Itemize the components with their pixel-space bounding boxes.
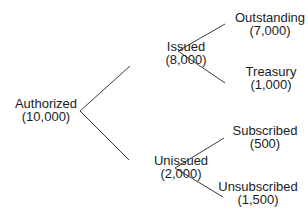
node-value: (500) [232, 137, 297, 150]
node-value: (1,500) [218, 193, 298, 206]
node-unsubscribed: Unsubscribed (1,500) [218, 180, 298, 206]
node-value: (1,000) [246, 78, 297, 91]
node-outstanding: Outstanding (7,000) [235, 11, 305, 37]
node-value: (2,000) [154, 167, 208, 180]
node-treasury: Treasury (1,000) [246, 65, 297, 91]
node-authorized: Authorized (10,000) [15, 97, 77, 123]
edge-authorized-issued [80, 66, 130, 111]
node-issued: Issued (8,000) [165, 40, 206, 66]
node-value: (8,000) [165, 53, 206, 66]
node-value: (7,000) [235, 24, 305, 37]
node-subscribed: Subscribed (500) [232, 124, 297, 150]
edge-authorized-unissued [80, 111, 129, 160]
node-value: (10,000) [15, 110, 77, 123]
node-unissued: Unissued (2,000) [154, 154, 208, 180]
